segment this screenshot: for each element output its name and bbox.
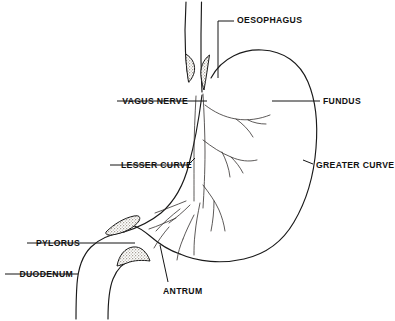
- label-vagus-nerve: VAGUS NERVE: [13, 97, 188, 106]
- label-greater-curve: GREATER CURVE: [316, 161, 394, 170]
- leader-line-oesophagus: [218, 21, 234, 78]
- vagus-nerve-branches: [149, 94, 270, 260]
- label-antrum: ANTRUM: [163, 287, 202, 296]
- duodenum-tube: [76, 232, 133, 319]
- label-lesser-curve: LESSER CURVE: [13, 161, 192, 170]
- leader-line-antrum: [160, 245, 168, 282]
- leader-line-greater-curve: [303, 160, 313, 164]
- pyloric-sphincter-stipple: [106, 216, 150, 266]
- label-pylorus: PYLORUS: [6, 239, 80, 248]
- stomach-body-outline: [124, 50, 317, 262]
- stomach-diagram: OESOPHAGUSVAGUS NERVEFUNDUSLESSER CURVEG…: [0, 0, 395, 321]
- label-fundus: FUNDUS: [323, 97, 361, 106]
- label-duodenum: DUODENUM: [5, 270, 73, 279]
- label-oesophagus: OESOPHAGUS: [237, 16, 302, 25]
- cardiac-sphincter-stipple: [186, 54, 210, 90]
